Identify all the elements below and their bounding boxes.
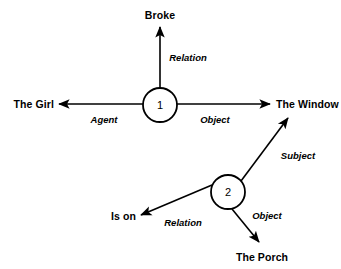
node-label-1: 1 (157, 99, 163, 111)
edge-line-relation-is-on (141, 185, 212, 215)
edge-label-relation-is-on: Relation (164, 217, 201, 228)
term-broke: Broke (145, 9, 175, 21)
edge-label-subject-window: Subject (281, 150, 315, 161)
semantic-network-graph (0, 0, 341, 269)
edge-label-relation-broke: Relation (169, 52, 206, 63)
edge-label-object-porch: Object (252, 210, 282, 221)
diagram-canvas: 1 2 Broke The Girl The Window Is on The … (0, 0, 341, 269)
term-the-girl: The Girl (14, 98, 54, 110)
edge-label-agent-girl: Agent (91, 114, 118, 125)
node-label-2: 2 (225, 186, 231, 198)
term-is-on: Is on (111, 210, 136, 222)
term-the-porch: The Porch (236, 251, 288, 263)
term-the-window: The Window (276, 98, 339, 110)
edge-label-object-window: Object (200, 114, 230, 125)
